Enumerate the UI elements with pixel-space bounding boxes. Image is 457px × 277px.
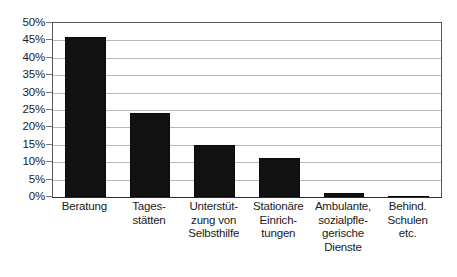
y-tick-label: 10%: [0, 156, 45, 167]
bar-chart: 0%5%10%15%20%25%30%35%40%45%50% Beratung…: [0, 0, 457, 277]
bar: [324, 193, 364, 197]
bar: [259, 158, 299, 197]
y-tick-label: 45%: [0, 34, 45, 45]
x-axis: BeratungTages- stättenUnterstüt- zung vo…: [52, 200, 440, 277]
bars-layer: [53, 23, 441, 197]
bar: [65, 37, 105, 197]
bar: [130, 113, 170, 197]
bar: [388, 196, 428, 198]
y-tick-label: 5%: [0, 173, 45, 184]
plot-area: [52, 22, 442, 198]
y-tick-label: 15%: [0, 138, 45, 149]
x-tick-label: Behind. Schulen etc.: [370, 200, 445, 241]
y-tick-label: 35%: [0, 69, 45, 80]
y-tick-label: 30%: [0, 86, 45, 97]
y-tick-label: 20%: [0, 121, 45, 132]
y-tick-label: 50%: [0, 17, 45, 28]
y-tick-label: 0%: [0, 191, 45, 202]
y-axis: 0%5%10%15%20%25%30%35%40%45%50%: [0, 0, 45, 277]
y-tick-label: 25%: [0, 104, 45, 115]
y-tick-label: 40%: [0, 51, 45, 62]
bar: [194, 145, 234, 197]
